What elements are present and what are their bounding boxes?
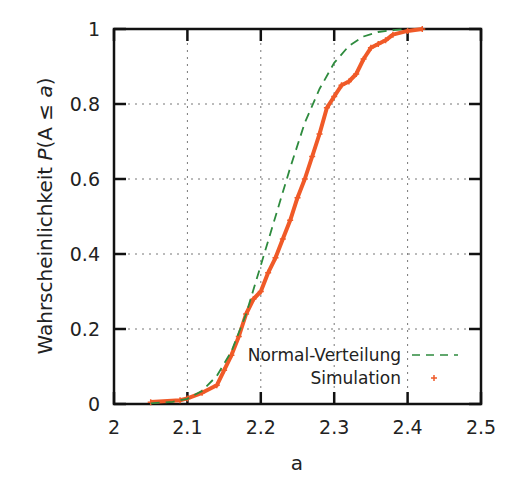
legend-label-simulation: Simulation [310,368,401,388]
x-tick-label: 2.3 [319,416,349,438]
y-axis-title: Wahrscheinlichkeit P(A ≤ a) [33,77,57,354]
x-tick-label: 2.1 [172,416,202,438]
legend-plus-marker-icon [431,375,437,381]
x-tick-label: 2.4 [392,416,422,438]
x-tick-label: 2 [108,416,120,438]
legend: Normal-Verteilung Simulation [248,345,458,388]
x-tick-label: 2.2 [246,416,276,438]
legend-label-normal: Normal-Verteilung [248,345,401,365]
y-tick-label: 0.6 [70,168,100,190]
y-tick-labels: 00.20.40.60.81 [70,18,100,415]
cdf-chart: 22.12.22.32.42.5 00.20.40.60.81 a Wahrsc… [0,0,522,488]
x-tick-labels: 22.12.22.32.42.5 [108,416,496,438]
y-tick-label: 1 [88,18,100,40]
y-tick-label: 0.2 [70,318,100,340]
x-tick-label: 2.5 [466,416,496,438]
x-axis-title: a [291,451,303,475]
y-tick-label: 0.4 [70,243,100,265]
y-tick-label: 0.8 [70,93,100,115]
y-tick-label: 0 [88,393,100,415]
